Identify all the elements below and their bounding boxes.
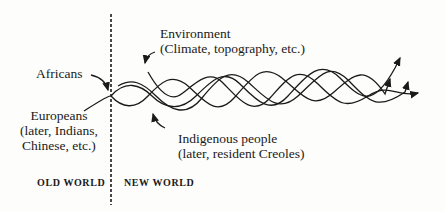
- europeans-label: Europeans (later, Indians, Chinese, etc.…: [20, 108, 98, 153]
- africans-label: Africans: [36, 66, 82, 81]
- environment-label: Environment (Climate, topography, etc.): [160, 26, 305, 56]
- old-world-label: OLD WORLD: [37, 177, 105, 188]
- environment-arrow: [145, 52, 155, 63]
- new-world-label: NEW WORLD: [124, 177, 194, 188]
- indigenous-label: Indigenous people (later, resident Creol…: [178, 131, 305, 161]
- africans-arrow: [91, 75, 108, 90]
- braid-strands: [111, 58, 418, 110]
- indigenous-arrow: [153, 114, 165, 128]
